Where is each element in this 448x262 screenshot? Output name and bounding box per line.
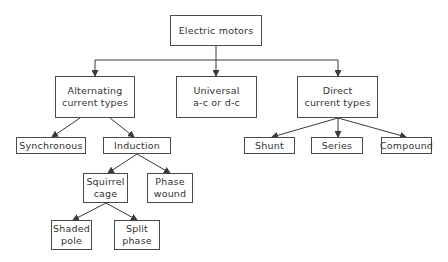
node-label: current types xyxy=(62,97,128,109)
node-induction: Induction xyxy=(103,137,171,154)
node-synchronous: Synchronous xyxy=(16,137,86,154)
node-split-phase: Split phase xyxy=(114,220,160,250)
node-label: Universal xyxy=(193,85,239,97)
node-label: current types xyxy=(304,97,370,109)
node-label: cage xyxy=(94,188,118,200)
node-alternating-current-types: Alternating current types xyxy=(55,76,135,118)
node-label: Alternating xyxy=(68,85,123,97)
node-label: Shaded xyxy=(53,223,90,235)
node-squirrel-cage: Squirrel cage xyxy=(83,173,128,203)
node-label: Induction xyxy=(114,140,160,152)
node-label: Compound xyxy=(380,140,433,152)
node-label: pole xyxy=(61,235,82,247)
node-universal: Universal a-c or d-c xyxy=(176,76,257,118)
node-label: Series xyxy=(322,140,352,152)
node-label: Phase xyxy=(155,176,184,188)
node-label: Split xyxy=(126,223,148,235)
node-compound: Compound xyxy=(381,137,432,154)
node-shunt: Shunt xyxy=(244,137,295,154)
node-shaded-pole: Shaded pole xyxy=(51,220,92,250)
node-label: Synchronous xyxy=(19,140,82,152)
node-label: Squirrel xyxy=(86,176,124,188)
node-electric-motors: Electric motors xyxy=(170,15,262,46)
node-label: Shunt xyxy=(255,140,284,152)
node-label: a-c or d-c xyxy=(193,97,240,109)
node-series: Series xyxy=(311,137,363,154)
node-label: wound xyxy=(154,188,187,200)
node-direct-current-types: Direct current types xyxy=(297,76,378,118)
node-phase-wound: Phase wound xyxy=(147,173,193,203)
node-label: Direct xyxy=(323,85,353,97)
node-label: Electric motors xyxy=(179,25,254,37)
node-label: phase xyxy=(122,235,152,247)
